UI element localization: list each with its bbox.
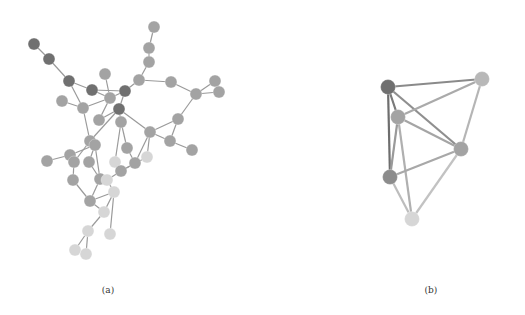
graph-node — [119, 85, 131, 97]
graph-node — [113, 103, 125, 115]
graph-node — [143, 42, 155, 54]
network-graph-b — [381, 72, 490, 227]
graph-node — [63, 75, 75, 87]
graph-edge — [461, 79, 482, 149]
graph-node — [129, 157, 141, 169]
edges-a — [34, 27, 219, 254]
graph-node — [67, 174, 79, 186]
graph-node — [84, 195, 96, 207]
graph-node — [80, 248, 92, 260]
caption-a: (a) — [102, 285, 114, 295]
graph-node — [89, 139, 101, 151]
graph-node — [86, 84, 98, 96]
network-graph-a — [28, 21, 225, 260]
graph-node — [133, 74, 145, 86]
graph-node — [165, 76, 177, 88]
graph-node — [77, 102, 89, 114]
graph-edge — [90, 109, 119, 141]
caption-b: (b) — [425, 285, 438, 295]
graph-edge — [388, 87, 390, 177]
graph-node — [209, 75, 221, 87]
graph-node — [121, 142, 133, 154]
graph-node — [190, 88, 202, 100]
graph-node — [213, 86, 225, 98]
graph-node — [391, 110, 406, 125]
graph-node — [28, 38, 40, 50]
graph-node — [56, 95, 68, 107]
graph-node — [43, 53, 55, 65]
graph-node — [69, 244, 81, 256]
graph-node — [98, 206, 110, 218]
graph-node — [381, 80, 396, 95]
graph-edge — [390, 117, 398, 177]
graph-node — [383, 170, 398, 185]
nodes-a — [28, 21, 225, 260]
graph-node — [93, 114, 105, 126]
graph-node — [144, 126, 156, 138]
graph-node — [99, 68, 111, 80]
graph-figure — [0, 0, 525, 315]
graph-node — [104, 92, 116, 104]
graph-node — [108, 186, 120, 198]
graph-node — [164, 135, 176, 147]
graph-node — [115, 116, 127, 128]
graph-node — [141, 151, 153, 163]
graph-node — [41, 155, 53, 167]
graph-node — [148, 21, 160, 33]
graph-node — [68, 156, 80, 168]
graph-node — [172, 113, 184, 125]
graph-node — [143, 56, 155, 68]
graph-node — [115, 165, 127, 177]
graph-node — [405, 212, 420, 227]
graph-node — [104, 228, 116, 240]
graph-node — [101, 174, 113, 186]
graph-node — [186, 144, 198, 156]
graph-node — [82, 225, 94, 237]
graph-node — [475, 72, 490, 87]
graph-node — [83, 156, 95, 168]
graph-node — [454, 142, 469, 157]
